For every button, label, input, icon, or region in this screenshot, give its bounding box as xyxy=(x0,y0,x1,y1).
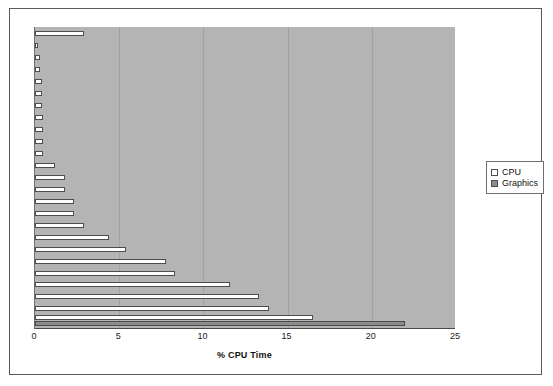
bar-cpu xyxy=(35,271,175,276)
bar-row xyxy=(35,279,455,291)
graphics-swatch-icon xyxy=(491,180,498,187)
bar-row xyxy=(35,112,455,124)
bar-cpu xyxy=(35,259,166,264)
bar-row xyxy=(35,207,455,219)
bar-cpu xyxy=(35,31,84,36)
bar-row xyxy=(35,219,455,231)
bar-cpu xyxy=(35,294,259,299)
bar-cpu xyxy=(35,55,40,60)
bar-cpu xyxy=(35,199,74,204)
bar-series-container xyxy=(35,27,455,328)
bar-row xyxy=(35,40,455,52)
bar-row xyxy=(35,315,455,327)
bar-row xyxy=(35,303,455,315)
chart-legend: CPUGraphics xyxy=(486,161,544,194)
x-axis-title: % CPU Time xyxy=(34,350,455,360)
bar-row xyxy=(35,136,455,148)
bar-cpu xyxy=(35,247,126,252)
legend-item-graphics: Graphics xyxy=(491,178,538,188)
bar-cpu xyxy=(35,187,65,192)
bar-row xyxy=(35,291,455,303)
bar-row xyxy=(35,267,455,279)
bar-graphics xyxy=(35,321,405,326)
bar-cpu xyxy=(35,43,38,48)
figure-frame: 0510152025 % CPU Time CPUGraphics xyxy=(9,8,542,375)
bar-row xyxy=(35,76,455,88)
bar-cpu xyxy=(35,139,43,144)
x-tick-label: 20 xyxy=(366,331,376,341)
bar-row xyxy=(35,52,455,64)
bar-cpu xyxy=(35,211,74,216)
legend-item-label: Graphics xyxy=(502,178,538,188)
bar-row xyxy=(35,100,455,112)
bar-row xyxy=(35,148,455,160)
legend-item-cpu: CPU xyxy=(491,167,538,177)
bar-row xyxy=(35,231,455,243)
bar-row xyxy=(35,28,455,40)
x-axis-tick-labels: 0510152025 xyxy=(34,331,455,347)
bar-row xyxy=(35,195,455,207)
bar-cpu xyxy=(35,315,313,320)
bar-row xyxy=(35,183,455,195)
bar-row xyxy=(35,255,455,267)
cpu-swatch-icon xyxy=(491,169,498,176)
x-tick-label: 5 xyxy=(116,331,121,341)
bar-cpu xyxy=(35,235,109,240)
bar-row xyxy=(35,64,455,76)
bar-cpu xyxy=(35,306,269,311)
bar-row xyxy=(35,124,455,136)
bar-cpu xyxy=(35,91,42,96)
bar-cpu xyxy=(35,163,55,168)
bar-cpu xyxy=(35,79,42,84)
x-tick-label: 10 xyxy=(197,331,207,341)
x-tick-label: 25 xyxy=(450,331,460,341)
bar-cpu xyxy=(35,175,65,180)
bar-row xyxy=(35,88,455,100)
bar-cpu xyxy=(35,103,42,108)
bar-row xyxy=(35,171,455,183)
bar-cpu xyxy=(35,282,230,287)
bar-cpu xyxy=(35,223,84,228)
bar-cpu xyxy=(35,127,43,132)
plot-area xyxy=(34,27,455,329)
x-tick-label: 0 xyxy=(31,331,36,341)
chart-figure: 0510152025 % CPU Time CPUGraphics xyxy=(0,0,553,386)
legend-item-label: CPU xyxy=(502,167,521,177)
bar-cpu xyxy=(35,115,43,120)
bar-cpu xyxy=(35,151,43,156)
bar-row xyxy=(35,243,455,255)
bar-row xyxy=(35,159,455,171)
x-tick-label: 15 xyxy=(282,331,292,341)
bar-cpu xyxy=(35,67,40,72)
